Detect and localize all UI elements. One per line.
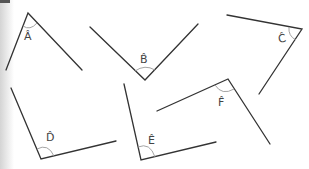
angle-d-arms xyxy=(11,88,116,159)
angle-f: F̂ xyxy=(157,79,270,144)
angles-diagram: Â B̂ Ĉ D̂ Ê F̂ xyxy=(0,0,309,169)
angle-c-arc xyxy=(289,27,296,40)
angle-b-arc xyxy=(135,67,155,71)
angle-b: B̂ xyxy=(90,24,198,80)
angle-e-label: Ê xyxy=(148,134,155,147)
angle-a: Â xyxy=(6,13,82,70)
angle-f-label: F̂ xyxy=(218,96,224,109)
angle-b-arms xyxy=(90,24,198,80)
angle-a-arms xyxy=(6,13,82,70)
angle-e-arms xyxy=(124,84,216,160)
angle-b-label: B̂ xyxy=(140,53,148,66)
angle-c-label: Ĉ xyxy=(277,32,288,46)
angle-d: D̂ xyxy=(11,88,116,159)
angle-a-label: Â xyxy=(24,30,32,43)
angle-c: Ĉ xyxy=(227,15,302,94)
angle-d-label: D̂ xyxy=(46,131,54,144)
angle-c-arms xyxy=(227,15,302,94)
angle-f-arc xyxy=(215,85,234,92)
angle-e: Ê xyxy=(124,84,216,160)
angle-a-arc xyxy=(23,23,37,28)
angle-f-arms xyxy=(157,79,270,144)
